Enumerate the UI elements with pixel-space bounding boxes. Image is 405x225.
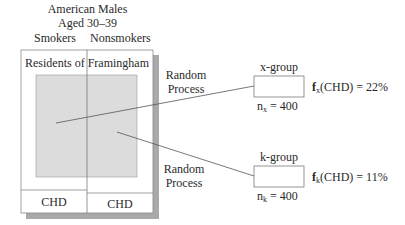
- x-group-sample-size: nx = 400: [257, 100, 298, 116]
- outcome-label-left: CHD: [21, 196, 87, 209]
- random-process-label-k-line1: Random: [158, 163, 210, 176]
- k-group-label: k-group: [250, 151, 308, 164]
- column-label-smokers: Smokers: [34, 32, 76, 45]
- x-group-label: x-group: [250, 61, 308, 74]
- x-group-box: [254, 76, 304, 97]
- random-process-label-k-line2: Process: [158, 177, 210, 190]
- random-process-label-x-line2: Process: [160, 83, 212, 96]
- population-sample-area: [36, 75, 137, 177]
- outcome-label-right: CHD: [87, 198, 153, 211]
- column-label-nonsmokers: Nonsmokers: [90, 32, 151, 45]
- population-title-line2: Aged 30–39: [40, 17, 135, 30]
- random-process-label-x-line1: Random: [160, 69, 212, 82]
- x-group-frequency: fx(CHD) = 22%: [312, 81, 388, 97]
- k-group-frequency: fk(CHD) = 11%: [312, 171, 388, 187]
- k-group-box: [254, 166, 304, 187]
- population-title-line1: American Males: [40, 3, 135, 16]
- k-group-sample-size: nk = 400: [257, 190, 298, 206]
- population-box-label: Residents of Framingham: [21, 57, 153, 70]
